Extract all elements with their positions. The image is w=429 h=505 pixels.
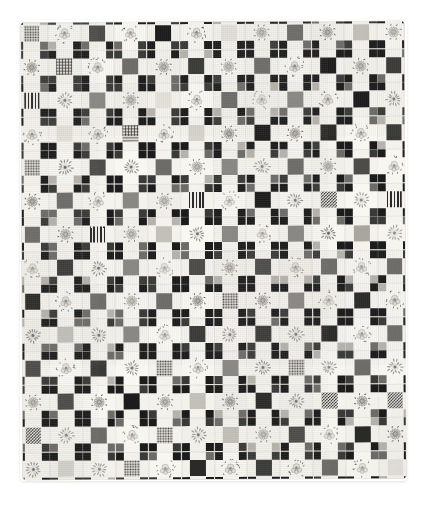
quilt-block-nine-patch xyxy=(81,21,114,50)
floral-block-corner-square xyxy=(280,275,288,283)
nine-patch-corner-square xyxy=(379,275,387,283)
quilt-block-floral xyxy=(312,82,345,116)
floral-block-corner-square xyxy=(107,343,115,351)
nine-patch-corner-square xyxy=(304,351,312,359)
nine-patch-corner-square xyxy=(312,183,320,191)
quilt-block-floral xyxy=(180,150,213,184)
floral-block-corner-square xyxy=(21,51,23,59)
floral-block-corner-square xyxy=(106,184,114,192)
nine-patch-corner-square xyxy=(81,84,89,92)
floral-block-corner-square xyxy=(139,84,147,92)
quilt-block-floral xyxy=(148,251,181,285)
nine-patch-corner-square xyxy=(140,318,148,326)
nine-patch-center-square xyxy=(24,159,40,175)
quilt-block-floral xyxy=(280,384,313,418)
nine-patch-corner-square xyxy=(344,21,352,24)
nine-patch-corner-square xyxy=(148,285,156,293)
quilt-block-nine-patch xyxy=(279,284,312,318)
floral-block-corner-square xyxy=(181,309,189,317)
floral-block-corner-square xyxy=(312,217,320,225)
quilt-block-nine-patch xyxy=(114,117,147,151)
nine-patch-center-square xyxy=(156,226,172,242)
quilt-block-nine-patch xyxy=(115,251,148,285)
nine-patch-corner-square xyxy=(81,21,89,25)
floral-block-corner-square xyxy=(73,176,81,184)
nine-patch-corner-square xyxy=(215,418,223,426)
quilt-block-nine-patch xyxy=(114,184,147,218)
floral-block-corner-square xyxy=(182,418,190,426)
nine-patch-corner-square xyxy=(369,107,377,115)
nine-patch-center-square xyxy=(255,259,271,275)
floral-block-corner-square xyxy=(74,243,82,251)
floral-block-corner-square xyxy=(370,317,378,325)
nine-patch-corner-square xyxy=(50,386,58,394)
floral-block-corner-square xyxy=(378,150,386,158)
floral-block-corner-square xyxy=(313,284,321,292)
nine-patch-corner-square xyxy=(239,418,247,426)
nine-patch-corner-square xyxy=(106,218,114,226)
nine-patch-corner-square xyxy=(271,184,279,192)
nine-patch-corner-square xyxy=(73,142,81,150)
floral-block-corner-square xyxy=(280,342,288,350)
nine-patch-center-square xyxy=(89,25,105,41)
floral-block-corner-square xyxy=(402,40,406,48)
floral-block-corner-square xyxy=(247,351,255,359)
nine-patch-center-square xyxy=(222,226,238,242)
floral-block-corner-square xyxy=(369,116,377,124)
nine-patch-corner-square xyxy=(204,50,212,58)
floral-block-corner-square xyxy=(336,83,344,91)
nine-patch-corner-square xyxy=(75,477,83,480)
nine-patch-corner-square xyxy=(139,184,147,192)
quilt-block-floral xyxy=(313,350,346,384)
nine-patch-corner-square xyxy=(140,452,148,460)
floral-block-corner-square xyxy=(41,209,49,217)
nine-patch-corner-square xyxy=(404,476,406,480)
floral-block-corner-square xyxy=(403,308,406,316)
nine-patch-corner-square xyxy=(41,310,49,318)
nine-patch-center-square xyxy=(287,158,303,174)
nine-patch-corner-square xyxy=(147,41,155,49)
nine-patch-center-square xyxy=(189,192,205,208)
nine-patch-corner-square xyxy=(337,317,345,325)
floral-block-corner-square xyxy=(304,183,312,191)
nine-patch-corner-square xyxy=(82,243,90,251)
floral-block-corner-square xyxy=(21,410,25,418)
nine-patch-corner-square xyxy=(246,50,254,58)
quilt-block-floral xyxy=(21,385,50,419)
nine-patch-corner-square xyxy=(172,83,180,91)
floral-block-corner-square xyxy=(346,451,354,459)
quilt-block-nine-patch xyxy=(246,116,279,150)
floral-block-corner-square xyxy=(73,84,81,92)
quilt-block-nine-patch xyxy=(378,183,406,217)
floral-block-corner-square xyxy=(114,21,122,25)
floral-block-corner-square xyxy=(312,41,320,49)
nine-patch-corner-square xyxy=(41,377,49,385)
floral-block-corner-square xyxy=(205,217,213,225)
quilt-block-floral xyxy=(247,418,280,452)
floral-block-corner-square xyxy=(180,108,188,116)
floral-block-corner-square xyxy=(214,343,222,351)
floral-block-corner-square xyxy=(371,451,379,459)
floral-block-corner-square xyxy=(304,275,312,283)
nine-patch-center-square xyxy=(90,159,106,175)
floral-block-corner-square xyxy=(41,343,49,351)
nine-patch-center-square xyxy=(123,260,139,276)
quilt-block-nine-patch xyxy=(247,451,280,480)
nine-patch-corner-square xyxy=(345,108,353,116)
nine-patch-corner-square xyxy=(280,418,288,426)
floral-block-corner-square xyxy=(21,209,24,217)
quilt-block-floral xyxy=(115,351,148,385)
quilt-block-nine-patch xyxy=(378,250,406,284)
nine-patch-center-square xyxy=(255,192,271,208)
floral-block-corner-square xyxy=(50,419,58,427)
quilt-block-nine-patch xyxy=(147,21,180,50)
quilt-block-floral xyxy=(48,21,81,50)
nine-patch-corner-square xyxy=(313,275,321,283)
nine-patch-corner-square xyxy=(272,476,280,479)
floral-block-corner-square xyxy=(279,74,287,82)
floral-block-corner-square xyxy=(139,218,147,226)
nine-patch-center-square xyxy=(353,91,369,107)
quilt-block-floral xyxy=(48,151,81,185)
floral-block-corner-square xyxy=(114,84,122,92)
quilt-block-nine-patch xyxy=(377,116,406,150)
